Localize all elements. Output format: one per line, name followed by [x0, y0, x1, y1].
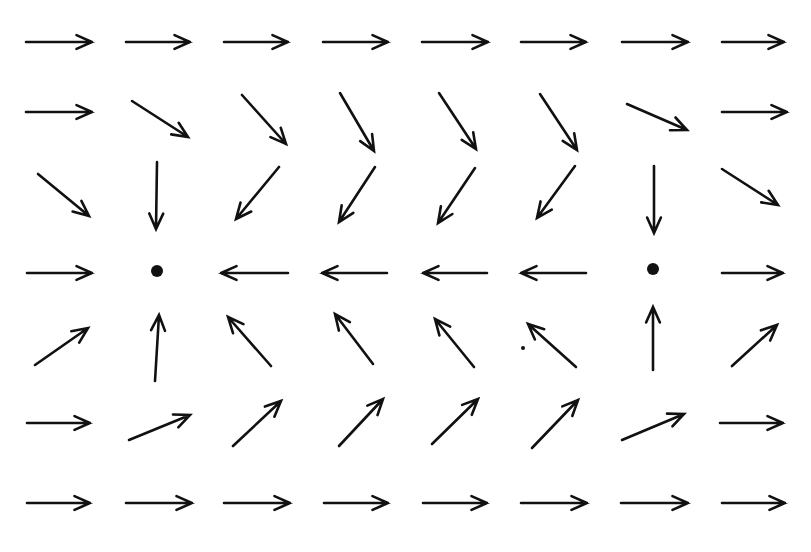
arrow-icon	[335, 314, 373, 364]
arrow-icon	[622, 35, 688, 49]
vector-field-diagram	[0, 0, 811, 552]
arrow-icon	[132, 101, 188, 137]
arrow-icon	[27, 416, 90, 430]
arrow-icon	[422, 35, 488, 49]
arrow-icon	[126, 496, 192, 510]
arrow-icon	[439, 93, 476, 149]
arrow-icon	[224, 496, 290, 510]
arrow-icon	[722, 35, 784, 49]
arrow-icon	[26, 35, 92, 49]
arrow-icon	[621, 496, 688, 510]
arrow-layer	[26, 35, 787, 510]
arrow-icon	[340, 93, 374, 151]
arrow-icon	[646, 307, 660, 370]
arrow-icon	[26, 105, 92, 119]
arrow-icon	[537, 166, 575, 218]
arrow-icon	[438, 168, 475, 223]
arrow-icon	[435, 319, 474, 367]
arrow-icon	[732, 325, 777, 366]
arrow-icon	[236, 167, 279, 219]
arrow-icon	[27, 266, 92, 280]
arrow-icon	[622, 414, 684, 440]
arrow-icon	[423, 266, 487, 280]
arrow-icon	[720, 416, 783, 430]
arrow-icon	[151, 315, 165, 381]
stray-mark	[521, 346, 525, 350]
arrow-icon	[149, 162, 163, 229]
arrow-icon	[323, 35, 388, 49]
arrow-icon	[722, 266, 783, 280]
arrow-icon	[627, 104, 687, 130]
arrow-icon	[339, 167, 375, 222]
arrow-icon	[647, 166, 661, 233]
arrow-icon	[521, 35, 586, 49]
arrow-icon	[339, 399, 383, 446]
arrow-icon	[540, 94, 577, 150]
arrow-icon	[532, 400, 578, 448]
arrow-icon	[233, 401, 281, 446]
sink-point-dot	[647, 263, 659, 275]
arrow-icon	[224, 35, 288, 49]
arrow-icon	[528, 324, 576, 367]
arrow-icon	[221, 266, 288, 280]
arrow-icon	[228, 317, 271, 366]
arrow-icon	[242, 95, 286, 144]
arrow-icon	[432, 399, 478, 444]
arrow-icon	[521, 496, 587, 510]
arrow-icon	[423, 496, 487, 510]
sink-point-dot	[151, 265, 163, 277]
arrow-icon	[722, 496, 785, 510]
arrow-icon	[324, 496, 388, 510]
arrow-icon	[722, 105, 787, 119]
arrow-icon	[129, 415, 190, 441]
arrow-icon	[722, 169, 778, 205]
arrow-icon	[38, 174, 89, 216]
arrow-icon	[322, 266, 387, 280]
arrow-icon	[27, 496, 90, 510]
arrow-icon	[521, 266, 586, 280]
arrow-icon	[35, 328, 88, 365]
arrow-icon	[126, 35, 190, 49]
